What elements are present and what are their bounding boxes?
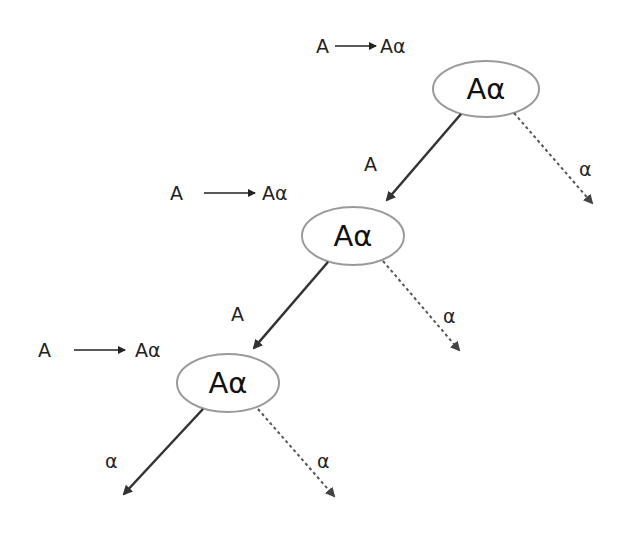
production-rule-3: A Aα [38, 339, 161, 361]
edge-label-alpha: α [579, 158, 592, 180]
level-1: A Aα Aα A α [316, 35, 592, 203]
edge-label-A: A [231, 303, 244, 325]
solid-edge-arrow-icon [387, 114, 461, 200]
solid-edge-arrow-icon [254, 262, 328, 348]
rule-lhs: A [38, 339, 51, 361]
rule-lhs: A [316, 35, 329, 57]
node-label: Aα [467, 72, 506, 106]
edge-label-A: α [105, 450, 118, 472]
tree-node-1: Aα [433, 61, 539, 117]
edge-label-alpha: α [443, 305, 456, 327]
tree-node-2: Aα [302, 207, 404, 265]
rule-rhs: Aα [380, 35, 406, 57]
level-2: A Aα Aα A α [170, 182, 459, 350]
edge-label-alpha: α [317, 450, 330, 472]
node-label: Aα [209, 366, 248, 400]
derivation-tree-diagram: A Aα Aα A α A Aα Aα A α A A [0, 0, 632, 533]
node-label: Aα [334, 219, 373, 253]
production-rule-2: A Aα [170, 182, 288, 204]
production-rule-1: A Aα [316, 35, 406, 57]
edge-label-A: A [364, 153, 377, 175]
rule-rhs: Aα [262, 182, 288, 204]
level-3: A Aα Aα α α [38, 339, 334, 496]
rule-lhs: A [170, 182, 183, 204]
tree-node-3: Aα [177, 354, 279, 412]
solid-edge-arrow-icon [124, 409, 203, 494]
rule-rhs: Aα [135, 339, 161, 361]
